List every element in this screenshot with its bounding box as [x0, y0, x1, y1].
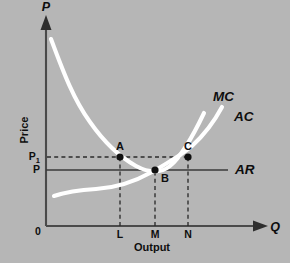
- point-c-dot: [184, 153, 191, 160]
- origin-label: 0: [35, 225, 41, 237]
- ac-curve-label: AC: [233, 109, 254, 124]
- ac-curve: [54, 107, 222, 196]
- figure-root: P Q 0 Price Output P1 P L M N MC AC AR A…: [0, 0, 290, 275]
- x-tick-label-l: L: [117, 228, 124, 240]
- x-axis-title: Output: [134, 241, 170, 253]
- y-axis-arrowhead: [41, 15, 52, 30]
- point-a-dot: [116, 153, 123, 160]
- y-axis-title: Price: [18, 117, 30, 144]
- ar-curve-label: AR: [234, 162, 255, 177]
- point-b-dot: [151, 166, 158, 173]
- x-tick-label-n: N: [184, 228, 192, 240]
- x-axis-symbol-label: Q: [270, 220, 280, 234]
- point-c-label: C: [184, 140, 192, 152]
- chart-panel: P Q 0 Price Output P1 P L M N MC AC AR A…: [0, 0, 290, 263]
- cost-curves-chart: P Q 0 Price Output P1 P L M N MC AC AR A…: [0, 0, 290, 263]
- mc-curve-label: MC: [213, 89, 234, 104]
- point-b-label: B: [161, 172, 169, 184]
- price-level-p1-base: P: [29, 150, 36, 162]
- point-a-label: A: [116, 140, 124, 152]
- price-level-p-label: P: [33, 163, 40, 175]
- x-axis-arrowhead: [253, 221, 268, 232]
- x-tick-label-m: M: [151, 228, 160, 240]
- y-axis-symbol-label: P: [42, 0, 51, 14]
